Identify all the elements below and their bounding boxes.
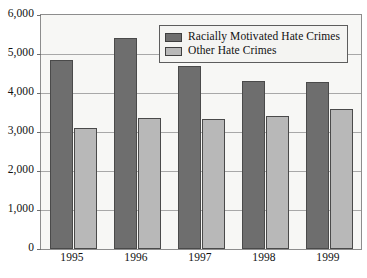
bar-chart-figure: 01,0002,0003,0004,0005,0006,000 Racially… (0, 0, 367, 278)
bar-1996-series-1 (138, 118, 161, 249)
bar-1998-series-0 (242, 81, 265, 249)
y-axis-tick-label: 1,000 (0, 203, 34, 215)
bar-1999-series-1 (330, 109, 353, 249)
y-axis-tick-label: 5,000 (0, 47, 34, 59)
x-axis-label-group: 19951996199719981999 (40, 252, 362, 272)
chart-legend: Racially Motivated Hate Crimes Other Hat… (159, 25, 348, 63)
bar-1998-series-1 (266, 116, 289, 249)
legend-label: Racially Motivated Hate Crimes (188, 31, 340, 43)
bar-1997-series-1 (202, 119, 225, 249)
plot-area: Racially Motivated Hate Crimes Other Hat… (40, 14, 362, 250)
bar-1995-series-1 (74, 128, 97, 249)
y-axis-tick-label: 3,000 (0, 125, 34, 137)
x-axis-tick-label: 1999 (296, 252, 360, 264)
x-axis-tick-label: 1998 (232, 252, 296, 264)
bar-1997-series-0 (178, 66, 201, 249)
y-axis-tick-label: 6,000 (0, 8, 34, 20)
bar-1999-series-0 (306, 82, 329, 249)
x-axis-tick-label: 1995 (40, 252, 104, 264)
y-axis-tick-label: 4,000 (0, 86, 34, 98)
legend-swatch-light-icon (165, 47, 182, 56)
legend-swatch-dark-icon (165, 33, 182, 42)
legend-item: Racially Motivated Hate Crimes (165, 30, 340, 44)
legend-label: Other Hate Crimes (188, 45, 277, 57)
y-axis-tick-label: 2,000 (0, 164, 34, 176)
x-axis-tick-label: 1997 (168, 252, 232, 264)
x-axis-tick-label: 1996 (104, 252, 168, 264)
bar-1995-series-0 (50, 60, 73, 249)
legend-item: Other Hate Crimes (165, 44, 340, 58)
y-axis-tick-label: 0 (0, 242, 34, 254)
bar-1996-series-0 (114, 38, 137, 249)
